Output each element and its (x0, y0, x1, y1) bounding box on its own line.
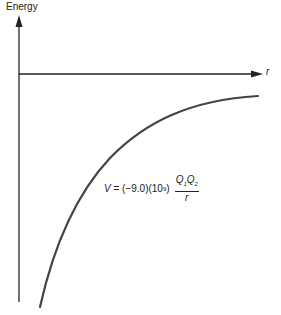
formula-equals: = (111, 183, 122, 194)
formula-lhs: V (104, 183, 111, 194)
y-axis-arrow-icon (16, 15, 23, 27)
formula-denominator: r (185, 192, 188, 203)
energy-plot (0, 0, 281, 315)
x-axis-arrow-icon (251, 71, 263, 78)
q2-sub: 2 (195, 181, 198, 187)
formula-fraction: Q1Q2 r (175, 174, 199, 203)
coulomb-formula: V = (−9.0)(109) Q1Q2 r (104, 174, 199, 203)
formula-numerator: Q1Q2 (175, 174, 199, 192)
q2: Q (187, 174, 195, 185)
formula-constant-close: ) (166, 183, 169, 194)
formula-constant: (−9.0)(10 (122, 183, 163, 194)
